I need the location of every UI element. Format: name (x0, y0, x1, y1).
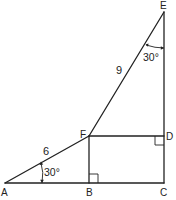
geometry-diagram: E F D A B C 6 9 30° 30° (0, 0, 176, 200)
right-angle-mark-b (89, 174, 98, 183)
label-e: E (160, 0, 167, 11)
segment-ef (89, 12, 164, 136)
right-angle-mark-d (155, 136, 164, 145)
arrow-head-icon (146, 43, 149, 46)
label-f: F (80, 129, 86, 140)
label-d: D (166, 131, 173, 142)
label-c: C (160, 187, 167, 198)
length-fe: 9 (116, 64, 122, 76)
angle-label-e: 30° (143, 51, 159, 63)
length-af: 6 (43, 145, 49, 157)
label-a: A (1, 187, 8, 198)
angle-label-a: 30° (44, 166, 60, 178)
label-b: B (86, 187, 93, 198)
